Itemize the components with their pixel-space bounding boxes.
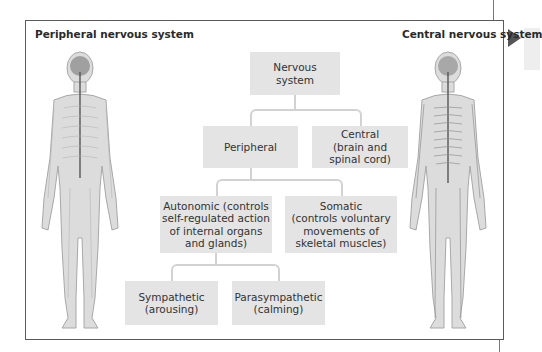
node-nervous-system-label: Nervous system xyxy=(273,61,316,86)
node-sympathetic-label: Sympathetic (arousing) xyxy=(138,291,204,316)
node-nervous-system: Nervous system xyxy=(250,52,340,95)
left-figure-title: Peripheral nervous system xyxy=(35,28,194,40)
node-central-label: Central (brain and spinal cord) xyxy=(329,128,391,166)
connector-root xyxy=(294,95,296,110)
central-nervous-system-figure xyxy=(408,48,488,333)
right-figure-title: Central nervous system xyxy=(402,28,542,40)
peripheral-nervous-system-figure xyxy=(40,48,120,333)
connector-root-children xyxy=(250,109,362,126)
page-edge-line-bottom xyxy=(499,340,500,352)
connector-peripheral-children xyxy=(216,179,343,196)
node-peripheral-label: Peripheral xyxy=(224,141,277,154)
node-parasympathetic-label: Parasympathetic (calming) xyxy=(234,291,322,316)
node-central: Central (brain and spinal cord) xyxy=(312,126,408,168)
node-autonomic: Autonomic (controls self-regulated actio… xyxy=(160,196,272,253)
node-parasympathetic: Parasympathetic (calming) xyxy=(232,281,325,325)
node-sympathetic: Sympathetic (arousing) xyxy=(125,281,218,325)
connector-autonomic-children xyxy=(171,264,280,281)
page-edge-line-top xyxy=(493,0,494,20)
node-somatic: Somatic (controls voluntary movements of… xyxy=(285,196,397,253)
node-peripheral: Peripheral xyxy=(203,126,298,168)
node-somatic-label: Somatic (controls voluntary movements of… xyxy=(291,200,390,250)
node-autonomic-label: Autonomic (controls self-regulated actio… xyxy=(162,200,270,250)
